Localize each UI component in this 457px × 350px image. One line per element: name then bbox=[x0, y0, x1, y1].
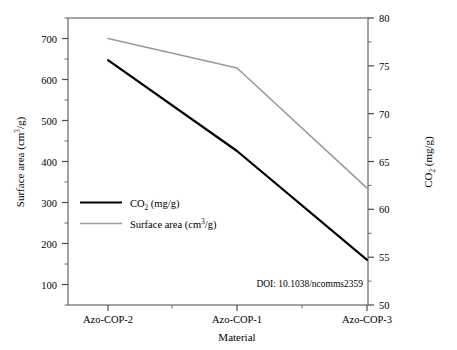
right-axis-title-tail: (mg/g) bbox=[422, 136, 435, 169]
left-tick-label-400: 400 bbox=[41, 157, 57, 168]
left-tick-label-700: 700 bbox=[41, 34, 57, 45]
right-tick-label-50: 50 bbox=[379, 300, 390, 311]
legend-label-co2-main: CO bbox=[130, 198, 145, 209]
right-tick-label-65: 65 bbox=[379, 157, 390, 168]
right-tick-label-70: 70 bbox=[379, 109, 390, 120]
doi-annotation: DOI: 10.1038/ncomms2359 bbox=[256, 279, 363, 289]
chart-legend: CO2 (mg/g) Surface area (cm3/g) bbox=[80, 198, 217, 231]
right-axis-title: CO2 (mg/g) bbox=[422, 136, 437, 188]
right-tick-label-80: 80 bbox=[379, 13, 390, 24]
series-line-surface-area bbox=[108, 39, 367, 189]
chart-figure: 100 200 300 400 500 600 700 Surface area… bbox=[0, 0, 457, 350]
x-axis: Azo-COP-2 Azo-COP-1 Azo-COP-3 Material bbox=[83, 305, 392, 343]
right-tick-label-75: 75 bbox=[379, 61, 390, 72]
x-tick-label-azo-cop-3: Azo-COP-3 bbox=[342, 314, 392, 325]
right-tick-label-60: 60 bbox=[379, 204, 390, 215]
legend-label-surface-area-main: Surface area (cm bbox=[130, 219, 201, 231]
right-axis-major-ticks bbox=[368, 18, 374, 305]
right-axis-title-main: CO bbox=[422, 172, 434, 187]
x-tick-label-azo-cop-1: Azo-COP-1 bbox=[212, 314, 262, 325]
left-tick-label-100: 100 bbox=[41, 280, 57, 291]
legend-item-co2: CO2 (mg/g) bbox=[80, 198, 180, 212]
x-tick-label-azo-cop-2: Azo-COP-2 bbox=[83, 314, 133, 325]
legend-item-surface-area: Surface area (cm3/g) bbox=[80, 218, 217, 231]
right-tick-label-55: 55 bbox=[379, 252, 390, 263]
x-axis-title: Material bbox=[218, 331, 255, 343]
left-axis-major-ticks bbox=[62, 39, 68, 285]
legend-label-surface-area-tail: /g) bbox=[205, 219, 217, 231]
right-axis: 50 55 60 65 70 75 80 CO2 (mg/g) bbox=[368, 13, 437, 311]
left-tick-label-500: 500 bbox=[41, 116, 57, 127]
legend-label-co2: CO2 (mg/g) bbox=[130, 198, 180, 212]
left-tick-label-200: 200 bbox=[41, 239, 57, 250]
left-axis: 100 200 300 400 500 600 700 Surface area… bbox=[14, 18, 68, 305]
left-tick-label-300: 300 bbox=[41, 198, 57, 209]
left-axis-title: Surface area (cm3/g) bbox=[14, 117, 27, 208]
series-line-co2 bbox=[108, 60, 367, 260]
left-axis-title-main: Surface area (cm bbox=[14, 132, 27, 207]
legend-label-surface-area: Surface area (cm3/g) bbox=[130, 218, 217, 231]
left-axis-title-tail: /g) bbox=[14, 117, 27, 130]
x-axis-ticks bbox=[108, 305, 367, 311]
legend-label-co2-tail: (mg/g) bbox=[148, 198, 180, 210]
left-tick-label-600: 600 bbox=[41, 75, 57, 86]
plot-frame bbox=[68, 18, 368, 305]
